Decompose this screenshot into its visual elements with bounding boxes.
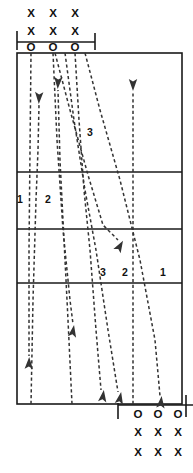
bottom-formation-group: OOOXXXXXX xyxy=(134,408,183,458)
route-route-down-3 xyxy=(55,53,127,253)
play-diagram-svg: XXXXXXOOO OOOXXXXXX 312321 xyxy=(0,0,193,473)
route-line xyxy=(31,105,39,404)
route-arrowhead xyxy=(98,389,108,402)
scrimmage-lines-group xyxy=(17,31,193,419)
routes-group xyxy=(25,53,166,408)
bottom-player-x-r3c2: X xyxy=(154,446,162,458)
play-diagram-canvas: XXXXXXOOO OOOXXXXXX 312321 xyxy=(0,0,193,473)
top-player-o-r3c1: O xyxy=(27,41,36,53)
top-player-x-r2c1: X xyxy=(27,25,35,37)
route-labels-group: 312321 xyxy=(17,126,166,278)
top-player-x-r1c3: X xyxy=(71,7,79,19)
route-label-5: 2 xyxy=(122,266,128,278)
route-arrowhead xyxy=(129,79,137,91)
bottom-player-o-r1c3: O xyxy=(174,408,183,420)
route-route-up-1 xyxy=(31,92,43,404)
bottom-player-o-r1c1: O xyxy=(134,408,143,420)
route-arrowhead xyxy=(113,239,126,254)
route-arrowhead xyxy=(156,396,166,409)
route-route-down-5 xyxy=(53,53,78,338)
top-player-o-r3c2: O xyxy=(49,41,58,53)
top-player-x-r1c1: X xyxy=(27,7,35,19)
route-label-2: 1 xyxy=(17,193,23,205)
route-arrowhead xyxy=(35,92,44,104)
route-label-3: 2 xyxy=(45,193,51,205)
route-label-6: 1 xyxy=(160,266,166,278)
route-route-down-6 xyxy=(85,53,166,408)
bottom-player-x-r2c1: X xyxy=(134,426,142,438)
top-player-x-r1c2: X xyxy=(49,7,57,19)
route-label-4: 3 xyxy=(100,266,106,278)
bottom-player-x-r2c2: X xyxy=(154,426,162,438)
bottom-player-o-r1c2: O xyxy=(154,408,163,420)
route-route-up-2 xyxy=(53,77,72,404)
route-line xyxy=(85,53,160,396)
route-route-up-3 xyxy=(129,79,137,404)
route-label-1: 3 xyxy=(87,126,93,138)
top-player-x-r2c2: X xyxy=(49,25,57,37)
route-arrowhead xyxy=(68,324,78,337)
route-line xyxy=(29,53,31,356)
route-arrowhead xyxy=(115,391,126,404)
top-formation-group: XXXXXXOOO xyxy=(27,7,80,53)
route-line xyxy=(65,53,118,392)
bottom-player-x-r2c3: X xyxy=(174,426,182,438)
top-player-o-r3c3: O xyxy=(71,41,80,53)
top-player-x-r2c3: X xyxy=(71,25,79,37)
bottom-player-x-r3c1: X xyxy=(134,446,142,458)
bottom-player-x-r3c3: X xyxy=(174,446,182,458)
route-line xyxy=(75,53,101,390)
